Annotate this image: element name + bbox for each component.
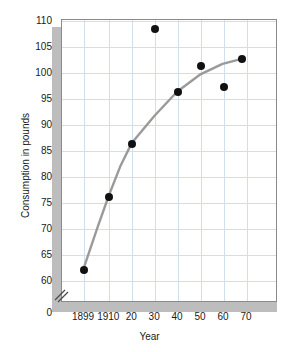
y-tick-label: 60 — [41, 275, 52, 286]
plot-inner — [62, 20, 276, 301]
x-tick-label: 70 — [240, 311, 251, 322]
y-tick-label: 90 — [41, 119, 52, 130]
data-point — [151, 25, 159, 33]
y-tick-label: 80 — [41, 171, 52, 182]
y-tick-label: 75 — [41, 197, 52, 208]
y-tick-label: 85 — [41, 145, 52, 156]
data-point — [174, 88, 182, 96]
y-axis-title: Consumption in pounds — [20, 86, 31, 246]
x-tick-label: 50 — [195, 311, 206, 322]
x-tick-label: 40 — [172, 311, 183, 322]
data-point — [238, 55, 246, 63]
x-tick-label: 60 — [217, 311, 228, 322]
y-tick-label: 0 — [46, 307, 52, 318]
y-tick-label: 95 — [41, 93, 52, 104]
y-tick-label: 110 — [36, 15, 52, 26]
x-tick-label: 20 — [126, 311, 137, 322]
x-axis-title: Year — [0, 331, 299, 342]
data-point — [80, 266, 88, 274]
y-tick-label: 100 — [35, 67, 52, 78]
data-point — [105, 193, 113, 201]
plot-area — [61, 19, 277, 302]
x-tick-label: 30 — [149, 311, 160, 322]
y-tick-label: 65 — [41, 249, 52, 260]
data-point — [197, 62, 205, 70]
y-tick-label: 70 — [41, 223, 52, 234]
x-tick-label: 1899 — [72, 311, 94, 322]
data-point — [220, 83, 228, 91]
x-tick-label: 1910 — [97, 311, 119, 322]
data-point — [128, 140, 136, 148]
y-tick-label: 105 — [35, 41, 52, 52]
chart-root: 06065707580859095100105110 1899191020304… — [0, 0, 299, 352]
